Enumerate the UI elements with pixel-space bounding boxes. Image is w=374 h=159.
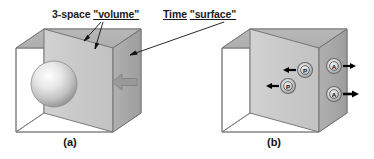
svg-text:A: A [332,91,337,98]
cube-b: P P A [222,29,359,132]
surface-annotation-quoted: "surface" [190,8,236,20]
svg-text:P: P [303,67,307,74]
figure-container: P P A [0,0,374,159]
volume-annotation-label: 3-space "volume" [52,8,139,20]
surface-annotation-plain: Time [163,8,187,20]
volume-annotation-quoted: "volume" [93,8,139,20]
panel-a-caption: (a) [55,136,85,148]
panel-b-caption: (b) [259,136,289,148]
volume-annotation-plain: 3-space [52,8,90,20]
volume-sphere [31,61,77,107]
surface-annotation-label: Time "surface" [163,8,236,20]
cube-a [16,29,141,132]
svg-text:P: P [286,83,290,90]
svg-text:A: A [332,63,337,70]
